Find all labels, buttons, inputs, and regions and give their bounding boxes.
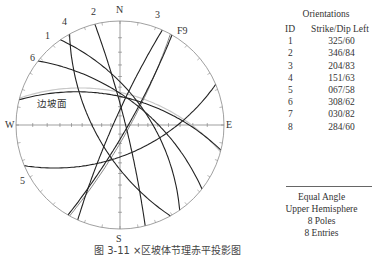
figure-caption: 图 3-11 ×区坡体节理赤平投影图 [94, 242, 241, 257]
stereonet-plot [0, 0, 250, 253]
orientation-value: 030/82 [310, 108, 373, 120]
projection-type: Equal Angle [270, 191, 373, 203]
orientation-value: 067/58 [310, 84, 373, 96]
plane-label-3: 3 [155, 10, 160, 20]
poles-count: 8 Poles [270, 215, 373, 227]
orientation-value: 346/84 [310, 47, 373, 59]
hemisphere: Upper Hemisphere [270, 203, 373, 215]
orientation-row: 2346/84 [285, 47, 373, 59]
summary-block: Equal Angle Upper Hemisphere 8 Poles 8 E… [270, 191, 373, 239]
orientation-id: 2 [285, 47, 310, 59]
orientation-row: 6308/62 [285, 96, 373, 108]
north-label: N [116, 5, 123, 15]
plane-label-2: 2 [91, 7, 96, 17]
plane-label-4: 4 [62, 17, 67, 27]
orientation-value: 308/62 [310, 96, 373, 108]
orientation-row: 1325/60 [285, 35, 373, 47]
plane-label-6: 6 [30, 53, 35, 63]
orientations-panel: Orientations ID Strike/Dip Left 1325/602… [285, 9, 373, 133]
orientation-id: 4 [285, 72, 310, 84]
entries-count: 8 Entries [270, 227, 373, 239]
id-header: ID [285, 23, 307, 35]
summary-divider [286, 186, 372, 187]
orientations-title: Orientations [279, 9, 373, 23]
orientation-row: 3204/83 [285, 60, 373, 72]
orientations-header: ID Strike/Dip Left [285, 23, 373, 35]
plane-label-5: 5 [20, 176, 25, 186]
orientation-id: 7 [285, 108, 310, 120]
orientation-row: 5067/58 [285, 84, 373, 96]
orientation-id: 3 [285, 60, 310, 72]
orientation-value: 204/83 [310, 60, 373, 72]
orientation-value: 325/60 [310, 35, 373, 47]
orientations-rows: 1325/602346/843204/834151/635067/586308/… [285, 35, 373, 133]
slope-face-label: 边坡面 [37, 99, 67, 109]
orientation-value: 151/63 [310, 72, 373, 84]
orientation-id: 1 [285, 35, 310, 47]
orientation-row: 4151/63 [285, 72, 373, 84]
orientation-row: 7030/82 [285, 108, 373, 120]
orientation-id: 6 [285, 96, 310, 108]
orientation-row: 8284/60 [285, 121, 373, 133]
orientation-id: 5 [285, 84, 310, 96]
orientation-id: 8 [285, 121, 310, 133]
strike-dip-header: Strike/Dip Left [307, 23, 373, 35]
orientation-value: 284/60 [310, 121, 373, 133]
west-label: W [5, 120, 14, 130]
axes [16, 21, 224, 229]
fault-f9-label: F9 [177, 26, 188, 36]
east-label: E [226, 120, 232, 130]
plane-label-1: 1 [45, 31, 50, 41]
